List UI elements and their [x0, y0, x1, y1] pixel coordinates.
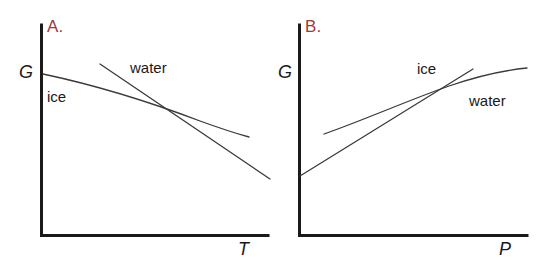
panel-a-x-axis-label: T [238, 240, 249, 258]
panel-a-y-axis-label: G [19, 63, 33, 81]
panel-b-y-axis-label: G [278, 63, 292, 81]
panel-a-curve-water [100, 64, 270, 179]
panel-a-curve-ice [43, 74, 249, 137]
panel-a-letter: A. [47, 18, 63, 35]
panel-b-curve-ice [300, 69, 473, 176]
panel-a-axes [42, 25, 269, 236]
panel-b-letter: B. [305, 18, 321, 35]
panel-b: B. G P ice water [269, 0, 549, 273]
panel-a: A. G T ice water [0, 0, 280, 273]
panel-a-label-ice: ice [47, 89, 66, 104]
panel-a-plot [0, 0, 280, 273]
panel-b-label-water: water [469, 93, 506, 108]
panel-b-label-ice: ice [417, 61, 436, 76]
panel-b-plot [269, 0, 549, 273]
figure-root: A. G T ice water B. G P ice water [0, 0, 549, 273]
panel-a-label-water: water [130, 60, 167, 75]
panel-b-x-axis-label: P [499, 240, 511, 258]
